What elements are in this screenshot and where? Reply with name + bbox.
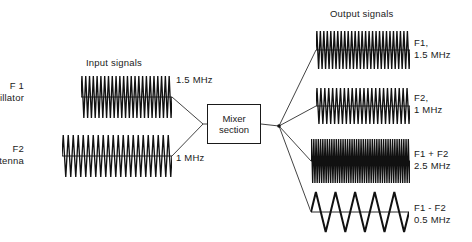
output-f1-line2: 1.5 MHz [414,49,451,61]
waveform-output-f1 [316,28,410,72]
output-label-difference: F1 - F2 0.5 MHz [414,202,451,225]
output-signals-title: Output signals [330,8,394,20]
input-frequency-f1: 1.5 MHz [176,74,213,86]
output-sum-line1: F1 + F2 [414,148,451,160]
waveform-output-difference [311,190,409,234]
waveform-input-f1 [81,73,172,121]
waveform-output-sum [311,137,410,185]
waveform-input-f2 [62,132,172,180]
input-label-f2-antenna: F2 Antenna [0,143,24,166]
output-f2-line1: F2, [414,92,442,104]
input-f1-line2: Oscillator [0,92,24,104]
output-label-sum: F1 + F2 2.5 MHz [414,148,451,171]
mixer-label-line2: section [219,124,249,135]
output-diff-line2: 0.5 MHz [414,214,451,226]
input-f2-line1: F2 [0,143,24,155]
input-f1-line1: F 1 [0,80,24,92]
waveform-output-f2 [316,85,410,127]
output-sum-line2: 2.5 MHz [414,160,451,172]
output-diff-line1: F1 - F2 [414,202,451,214]
output-label-f1: F1, 1.5 MHz [414,37,451,60]
mixer-label-line1: Mixer [222,113,245,124]
input-f2-line2: Antenna [0,155,24,167]
mixer-section-box: Mixer section [207,104,261,144]
input-label-f1-oscillator: F 1 Oscillator [0,80,24,103]
output-f1-line1: F1, [414,37,451,49]
output-label-f2: F2, 1 MHz [414,92,442,115]
mixer-signal-diagram: Input signals Output signals F 1 Oscilla… [0,0,472,242]
input-signals-title: Input signals [86,57,142,69]
input-frequency-f2: 1 MHz [176,152,204,164]
output-f2-line2: 1 MHz [414,104,442,116]
